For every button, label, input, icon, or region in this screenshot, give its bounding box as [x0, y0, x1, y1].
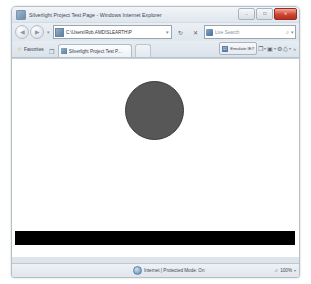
search-go-icon[interactable]: ⌕	[286, 29, 289, 36]
favorites-button[interactable]: ☆ Favorites	[15, 43, 46, 55]
security-zone-label: Internet | Protected Mode: On	[144, 268, 204, 273]
page-menu-button[interactable]: ❐ ▾	[258, 46, 266, 52]
favorites-label: Favorites	[24, 47, 44, 52]
add-to-favorites-icon[interactable]: ❐	[49, 48, 54, 55]
emulate-ie7-button[interactable]: ☑ Emulate IE7	[219, 42, 257, 55]
zoom-level-label: 100%	[280, 268, 292, 273]
live-search-icon	[206, 29, 213, 36]
zoom-control[interactable]: ⌕ 100% ▾	[275, 267, 296, 274]
zoom-caret-icon[interactable]: ▾	[294, 268, 296, 273]
printer-icon: ⎙	[283, 46, 288, 52]
search-input[interactable]: Live Search ⌕ ▾	[204, 25, 296, 39]
emulate-ie7-icon: ☑	[222, 46, 228, 52]
silverlight-black-bar	[15, 231, 295, 245]
browser-tab[interactable]: Silverlight Project Test P...	[58, 44, 132, 57]
address-bar-input[interactable]: C:\Users\Rob.AMD\SLEARTH\P ▾	[53, 25, 172, 39]
status-bar: Internet | Protected Mode: On ⌕ 100% ▾	[12, 263, 299, 277]
tools-menu-button[interactable]: ⚙	[277, 46, 282, 52]
tab-label: Silverlight Project Test P...	[69, 49, 129, 54]
page-icon: ❐	[258, 46, 263, 52]
refresh-icon[interactable]: ↻	[174, 25, 187, 39]
window-controls: – ☐ ✕	[238, 8, 297, 20]
search-placeholder-text: Live Search	[215, 30, 284, 35]
safety-icon: ▣	[267, 46, 273, 52]
safety-menu-caret-icon: ▾	[274, 46, 276, 51]
security-zone-indicator[interactable]: Internet | Protected Mode: On	[133, 266, 204, 275]
favorites-and-tab-bar: ☆ Favorites ❐ Silverlight Project Test P…	[12, 41, 299, 58]
close-button[interactable]: ✕	[274, 8, 297, 20]
command-bar-overflow-icon[interactable]: »	[292, 46, 296, 52]
gear-icon: ⚙	[277, 46, 282, 52]
internet-explorer-window: Silverlight Project Test Page - Windows …	[11, 6, 300, 278]
stop-icon[interactable]: ✕	[189, 25, 202, 39]
silverlight-ellipse	[125, 81, 184, 140]
ie-page-icon	[16, 10, 26, 20]
new-tab-button[interactable]	[135, 44, 151, 57]
page-content-area[interactable]	[12, 58, 299, 257]
recent-pages-caret-icon[interactable]: ▾	[46, 29, 51, 35]
page-menu-caret-icon: ▾	[264, 46, 266, 51]
internet-zone-icon	[133, 266, 142, 275]
emulate-ie7-label: Emulate IE7	[230, 46, 254, 51]
search-provider-caret-icon[interactable]: ▾	[291, 30, 294, 35]
forward-button[interactable]: ▶	[30, 25, 44, 39]
address-dropdown-icon[interactable]: ▾	[166, 30, 170, 35]
minimize-button[interactable]: –	[238, 8, 255, 20]
window-title: Silverlight Project Test Page - Windows …	[29, 12, 162, 18]
print-menu-caret-icon: ▾	[289, 46, 291, 51]
navigation-bar: ◀ ▶ ▾ C:\Users\Rob.AMD\SLEARTH\P ▾ ↻ ✕ L…	[12, 23, 299, 41]
safety-menu-button[interactable]: ▣ ▾	[267, 46, 276, 52]
star-icon: ☆	[17, 46, 22, 52]
magnifier-icon: ⌕	[275, 267, 278, 274]
screenshot-root: Silverlight Project Test Page - Windows …	[0, 0, 311, 284]
back-forward-group: ◀ ▶	[15, 25, 44, 39]
back-button[interactable]: ◀	[15, 25, 29, 39]
title-bar[interactable]: Silverlight Project Test Page - Windows …	[12, 7, 299, 23]
command-bar: ☑ Emulate IE7 ❐ ▾ ▣ ▾ ⚙ ⎙ ▾ »	[219, 42, 296, 55]
maximize-button[interactable]: ☐	[256, 8, 273, 20]
address-bar-value: C:\Users\Rob.AMD\SLEARTH\P	[66, 30, 164, 35]
tab-favicon-icon	[61, 48, 67, 54]
print-menu-button[interactable]: ⎙ ▾	[283, 46, 291, 52]
address-favicon-icon	[55, 28, 64, 37]
